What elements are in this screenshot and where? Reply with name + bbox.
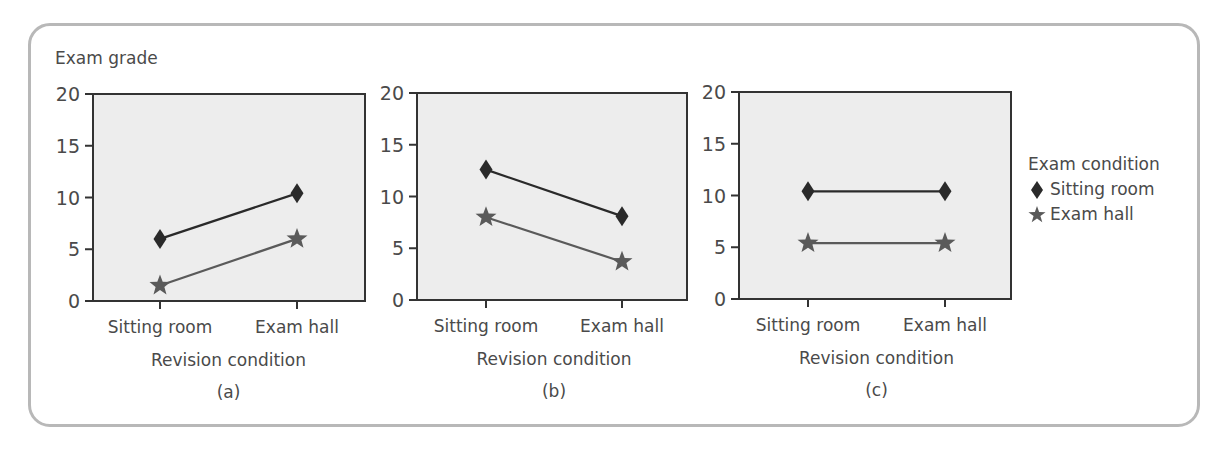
y-tick-label: 15 — [380, 134, 404, 156]
y-tick-label: 0 — [68, 290, 80, 312]
x-tick-label: Sitting room — [756, 315, 861, 335]
x-tick-label: Sitting room — [434, 316, 539, 336]
star-icon — [1028, 205, 1046, 225]
legend-label: Exam hall — [1050, 202, 1134, 227]
y-tick-label: 5 — [714, 236, 726, 258]
diamond-icon — [1028, 181, 1046, 199]
legend-title: Exam condition — [1028, 152, 1160, 177]
y-tick-label: 5 — [68, 238, 80, 260]
y-tick-label: 5 — [392, 237, 404, 259]
panel-caption: (c) — [865, 380, 888, 400]
plot-area — [417, 93, 687, 300]
y-tick-label: 15 — [702, 133, 726, 155]
chart-panel-c: 05101520Sitting roomExam hallRevision co… — [702, 81, 1011, 400]
y-tick-label: 20 — [380, 82, 404, 104]
y-tick-label: 10 — [380, 186, 404, 208]
plot-area — [93, 94, 365, 301]
y-tick-label: 20 — [56, 83, 80, 105]
y-tick-label: 15 — [56, 135, 80, 157]
panel-caption: (b) — [542, 381, 566, 401]
y-tick-label: 20 — [702, 81, 726, 103]
x-tick-label: Exam hall — [580, 316, 664, 336]
x-tick-label: Exam hall — [903, 315, 987, 335]
chart-panel-a: 05101520Sitting roomExam hallRevision co… — [56, 83, 365, 402]
chart-panel-b: 05101520Sitting roomExam hallRevision co… — [380, 82, 687, 401]
charts-canvas: 05101520Sitting roomExam hallRevision co… — [0, 0, 1230, 457]
legend-label: Sitting room — [1050, 177, 1155, 202]
x-tick-label: Sitting room — [108, 317, 213, 337]
x-axis-title: Revision condition — [799, 348, 954, 368]
y-tick-label: 0 — [714, 288, 726, 310]
legend-item-exam-hall: Exam hall — [1028, 202, 1160, 227]
y-tick-label: 0 — [392, 289, 404, 311]
x-tick-label: Exam hall — [255, 317, 339, 337]
x-axis-title: Revision condition — [151, 350, 306, 370]
legend-item-sitting-room: Sitting room — [1028, 177, 1160, 202]
plot-area — [739, 92, 1011, 299]
legend: Exam condition Sitting room Exam hall — [1028, 152, 1160, 227]
y-tick-label: 10 — [56, 187, 80, 209]
x-axis-title: Revision condition — [476, 349, 631, 369]
panel-caption: (a) — [217, 382, 241, 402]
y-tick-label: 10 — [702, 185, 726, 207]
